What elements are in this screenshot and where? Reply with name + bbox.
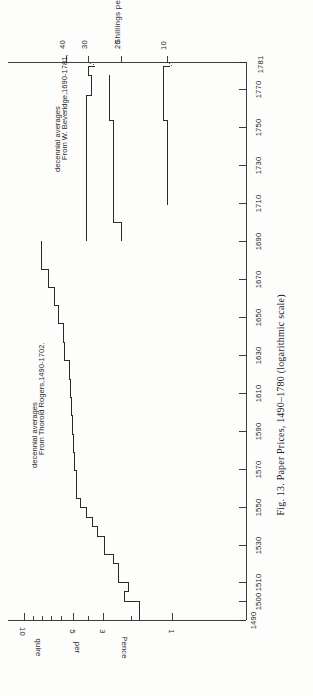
figure-paper-prices: 1490 1500 1510 1530 1550 1570 1590 1610 … (0, 0, 313, 696)
shillings-tick-label-20: 20 (113, 40, 122, 49)
series-end-dots (88, 62, 172, 66)
shillings-tick-label-30: 30 (80, 40, 89, 49)
x-tick-label-1610: 1610 (254, 385, 263, 403)
x-tick-label-1500: 1500 (254, 593, 263, 611)
pence-tick-label-10: 10 (18, 627, 27, 636)
annotation-rogers-line2: decennial averages (30, 338, 40, 468)
x-tick-label-1650: 1650 (254, 309, 263, 327)
annotation-beveridge-line2: decennial averages (53, 52, 63, 172)
x-tick-label-1670: 1670 (254, 271, 263, 289)
left-axis-title-pence: Pence (120, 636, 129, 659)
x-tick-label-1690: 1690 (254, 233, 263, 251)
left-axis-title-quire: quire (34, 639, 43, 657)
shillings-tick-label-10: 10 (159, 41, 168, 50)
figure-caption: Fig. 13. Paper Prices, 1490–1780 (logari… (275, 296, 286, 516)
series-beveridge-c (163, 66, 170, 205)
x-tick-label-1781: 1781 (256, 56, 265, 74)
year-ticks (239, 62, 246, 620)
series-beveridge-b (109, 75, 121, 241)
pence-tick-label-3: 3 (98, 629, 107, 633)
left-axis-title-per: per (73, 642, 82, 654)
x-tick-label-1550: 1550 (254, 499, 263, 517)
pence-tick-label-1: 1 (167, 629, 176, 633)
x-tick-label-1730: 1730 (254, 157, 263, 175)
x-tick-label-1510: 1510 (254, 574, 263, 592)
x-tick-label-1630: 1630 (254, 347, 263, 365)
x-tick-label-1570: 1570 (254, 461, 263, 479)
x-tick-label-1590: 1590 (254, 423, 263, 441)
pence-ticks (24, 613, 172, 620)
series-rogers-line (41, 241, 139, 620)
series-beveridge-a (86, 66, 95, 241)
x-tick-label-1710: 1710 (254, 195, 263, 213)
shillings-ticks (66, 56, 167, 62)
x-tick-label-1530: 1530 (254, 537, 263, 555)
pence-tick-label-5: 5 (68, 629, 77, 633)
x-tick-label-1770: 1770 (254, 81, 263, 99)
x-tick-label-1750: 1750 (254, 119, 263, 137)
x-tick-label-1490: 1490 (249, 612, 258, 630)
